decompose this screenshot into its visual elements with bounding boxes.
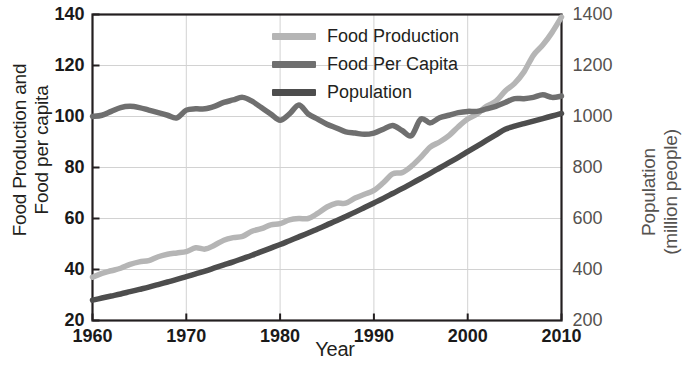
y-axis-left-ticklabel: 60	[39, 208, 85, 229]
legend-swatch-icon	[272, 61, 316, 68]
legend-item: Food Production	[272, 22, 459, 50]
legend-swatch-icon	[272, 33, 316, 40]
legend-label: Food Per Capita	[327, 54, 458, 75]
x-axis-ticklabel: 1980	[250, 326, 310, 347]
y-axis-right-ticklabel: 400	[573, 259, 633, 280]
x-axis-ticklabel: 1970	[156, 326, 216, 347]
legend-item: Population	[272, 78, 459, 106]
x-axis-ticklabel: 1990	[344, 326, 404, 347]
x-axis-ticklabel: 2010	[532, 326, 592, 347]
y-axis-left-ticklabel: 140	[39, 4, 85, 25]
legend-item: Food Per Capita	[272, 50, 459, 78]
y-axis-left-ticklabel: 120	[39, 55, 85, 76]
y-axis-left-ticklabel: 100	[39, 106, 85, 127]
y-axis-right-ticklabel: 1400	[573, 4, 633, 25]
x-axis-ticklabel: 2000	[438, 326, 498, 347]
y-axis-right-ticklabel: 600	[573, 208, 633, 229]
legend-label: Population	[327, 82, 412, 103]
y-axis-right-ticklabel: 1200	[573, 55, 633, 76]
legend-label: Food Production	[327, 26, 459, 47]
x-axis-ticklabel: 1960	[63, 326, 123, 347]
legend-swatch-icon	[272, 89, 316, 96]
chart-legend: Food ProductionFood Per CapitaPopulation	[272, 22, 459, 106]
y-axis-right-ticklabel: 1000	[573, 106, 633, 127]
y-axis-right-ticklabel: 800	[573, 157, 633, 178]
y-axis-left-ticklabel: 40	[39, 259, 85, 280]
y-axis-left-ticklabel: 80	[39, 157, 85, 178]
